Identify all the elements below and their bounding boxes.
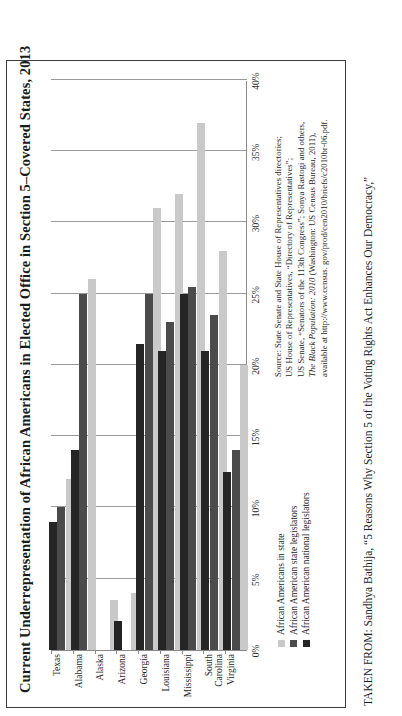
legend-swatch [303,640,310,647]
bar-group: Georgia [138,81,160,650]
axis-tick-label: 40% [251,72,261,89]
gridline [51,79,247,80]
figure-box: Current Underrepresentation of African A… [6,60,346,708]
bar [145,294,153,650]
bar [232,451,240,651]
source-line-4-rest: (Washington: US Census Bureau, 2011), [307,133,317,278]
axis-tick-label: 30% [251,215,261,232]
axis-tick-label: 20% [251,357,261,374]
bar-group: SouthCarolina [203,81,225,650]
bar [210,315,218,650]
axis-tick-label: 0% [251,645,261,658]
source-line-2: US House of Representatives, “Directory … [284,67,295,377]
bar-group: Louisiana [160,81,182,650]
bar [71,451,79,651]
plot-area: TexasAlabamaAlaskaArizonaGeorgiaLouisian… [51,81,247,651]
axis-tick-label: 10% [251,500,261,517]
category-label: Virginia [226,654,236,685]
source-line-5: available at http://www.census. gov/prod… [319,67,330,377]
bar-group: Alabama [73,81,95,650]
legend-swatch [278,640,285,647]
axis-tick-label: 15% [251,429,261,446]
category-label: Louisiana [161,654,171,691]
bar [57,508,65,651]
source-line-4: The Black Population: 2010 (Washington: … [307,67,318,377]
category-label: Texas [52,654,62,676]
bar [188,287,196,650]
axis-tick-label: 25% [251,286,261,303]
bar-group: Alaska [95,81,117,650]
axis-tick-label: 5% [251,573,261,586]
legend-swatch [290,640,297,647]
plot-canvas: TexasAlabamaAlaskaArizonaGeorgiaLouisian… [51,81,247,651]
source-line-1: Source: State Senate and State House of … [273,67,284,377]
bar-group: Mississippi [182,81,204,650]
bar [114,622,122,651]
chart-legend: African Americans in stateAfrican Americ… [275,492,313,647]
source-line-3: US Senate, “Senators of the 113th Congre… [296,67,307,377]
legend-item: African American state legislators [288,492,301,647]
category-label: Georgia [139,654,149,684]
legend-label: African American national legislators [300,492,313,635]
legend-label: African American state legislators [288,505,301,635]
bar [180,294,188,650]
bar [223,472,231,650]
legend-label: African Americans in state [275,533,288,635]
category-label: Alabama [74,654,84,688]
bar [240,365,248,650]
legend-item: African Americans in state [275,492,288,647]
page-title: Current Underrepresentation of African A… [17,46,34,693]
y-axis-tick-labels: 0%5%10%15%20%25%30%35%40% [251,81,267,651]
bar-group: Virginia [225,81,247,650]
category-label: Mississippi [183,654,193,697]
category-label: SouthCarolina [204,654,224,687]
category-label: Arizona [117,654,127,685]
bar [79,294,87,650]
figure-caption: TAKEN FROM: Sandhya Bathija, “5 Reasons … [362,16,374,706]
source-note: Source: State Senate and State House of … [273,67,330,377]
category-label: Alaska [95,654,105,680]
bar [49,522,57,650]
rotated-figure-stage: Current Underrepresentation of African A… [0,0,402,716]
bar [166,322,174,650]
bar-group: Texas [51,81,73,650]
bar-group: Arizona [116,81,138,650]
bar [136,344,144,650]
source-italic-title: The Black Population: 2010 [307,278,317,377]
axis-tick-label: 35% [251,144,261,161]
bar [158,351,166,650]
bar [201,351,209,650]
legend-item: African American national legislators [300,492,313,647]
